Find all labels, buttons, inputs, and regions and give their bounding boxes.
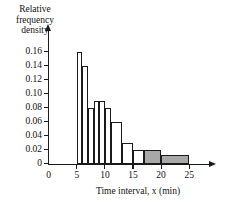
plot-area: 00.020.040.060.080.100.120.140.16 051015… <box>0 0 227 204</box>
x-axis-tick-label: 10 <box>95 171 115 181</box>
x-axis-label-text: Time interval, x (min) <box>96 186 180 196</box>
y-axis-tick <box>44 107 49 108</box>
y-axis-tick <box>44 51 49 52</box>
x-axis-arrow-icon <box>209 161 216 167</box>
histogram-bar <box>133 150 144 164</box>
y-axis-tick-label: 0.06 <box>25 117 42 127</box>
x-axis-tick <box>104 164 105 169</box>
histogram-bar <box>122 143 133 164</box>
x-axis-tick <box>161 164 162 169</box>
x-axis-line <box>48 164 211 165</box>
y-axis-tick-label: 0.14 <box>25 61 42 71</box>
y-axis-tick <box>44 79 49 80</box>
x-axis-tick <box>76 164 77 169</box>
y-axis-tick <box>44 65 49 66</box>
y-axis-tick-label: 0.02 <box>25 145 42 155</box>
y-axis-tick-label: 0.12 <box>25 75 42 85</box>
x-axis-tick-label: 5 <box>67 171 87 181</box>
histogram-bar <box>161 155 189 164</box>
x-axis-label: Time interval, x (min) <box>96 186 180 196</box>
y-axis-tick-label: 0.04 <box>25 131 42 141</box>
x-axis-tick <box>132 164 133 169</box>
y-axis-tick <box>44 93 49 94</box>
y-axis-tick-label: 0.16 <box>25 47 42 57</box>
y-axis-tick <box>44 163 49 164</box>
x-axis-tick-label: 25 <box>179 171 199 181</box>
y-axis-tick-label: 0.10 <box>25 89 42 99</box>
x-axis-tick <box>189 164 190 169</box>
x-axis-tick-label: 0 <box>39 171 59 181</box>
y-axis-arrow-icon <box>45 24 51 31</box>
histogram-figure: Relative frequency density 00.020.040.06… <box>0 0 227 204</box>
x-axis-tick-label: 20 <box>151 171 171 181</box>
y-axis-tick-label: 0.08 <box>25 103 42 113</box>
histogram-bar <box>111 122 122 164</box>
y-axis-tick-label: 0 <box>37 159 42 169</box>
y-axis-tick <box>44 135 49 136</box>
y-axis-tick <box>44 121 49 122</box>
x-axis-tick-label: 15 <box>123 171 143 181</box>
histogram-bar <box>144 150 161 164</box>
y-axis-tick <box>44 149 49 150</box>
